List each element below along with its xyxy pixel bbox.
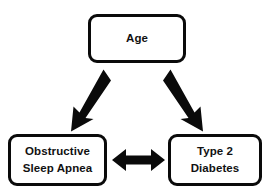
node-obstructive-sleep-apnea[interactable]: Obstructive Sleep Apnea [8, 134, 107, 186]
arrow-obstructive-sleep-apnea-to-type-2-diabetes [112, 149, 165, 171]
node-type-2-diabetes[interactable]: Type 2 Diabetes [168, 134, 262, 186]
node-age-label-line-1: Age [126, 30, 148, 47]
node-type-2-diabetes-label-line-2: Diabetes [191, 160, 240, 177]
node-type-2-diabetes-label-line-1: Type 2 [197, 143, 233, 160]
arrow-age-to-obstructive-sleep-apnea [71, 70, 111, 132]
diagram-canvas: Age Obstructive Sleep Apnea Type 2 Diabe… [0, 0, 275, 194]
arrow-age-to-type-2-diabetes [163, 70, 203, 132]
node-obstructive-sleep-apnea-label-line-2: Sleep Apnea [23, 160, 93, 177]
node-obstructive-sleep-apnea-label-line-1: Obstructive [25, 143, 90, 160]
node-age[interactable]: Age [88, 14, 186, 63]
